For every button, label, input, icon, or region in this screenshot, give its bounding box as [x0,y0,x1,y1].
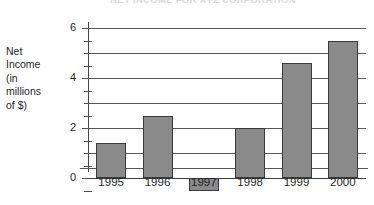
x-axis-tick-label: 1997 [181,176,227,188]
gridline [88,53,366,54]
y-axis-tick-label: 0 [54,171,76,183]
gridline [88,153,366,154]
y-axis-label-line: millions [6,85,64,98]
x-axis-tick-label: 1996 [135,176,181,188]
bar [282,63,312,178]
bar-chart-figure: NET INCOME FOR XYZ CORPORATION Net Incom… [0,0,374,205]
gridline [88,28,366,29]
chart-title: NET INCOME FOR XYZ CORPORATION [78,0,328,6]
y-axis-tick-label: 4 [54,71,76,83]
bar [96,143,126,178]
y-axis-label-line: Net [6,45,64,58]
gridline [88,128,366,129]
bar [328,41,358,179]
x-axis-tick-label: 2000 [320,176,366,188]
y-axis-label-line: of $) [6,99,64,112]
bar [143,116,173,179]
x-axis-tick-label: 1995 [88,176,134,188]
gridline [88,78,366,79]
x-axis-tick-label: 1999 [274,176,320,188]
x-axis-tick-label: 1998 [227,176,273,188]
plot-area [88,28,366,168]
y-axis-tick-label: 2 [54,121,76,133]
gridline [88,103,366,104]
bar [235,128,265,178]
y-axis-tick-label: 6 [54,21,76,33]
y-axis-label-line: Income [6,58,64,71]
y-axis-minor-tick [84,191,92,192]
